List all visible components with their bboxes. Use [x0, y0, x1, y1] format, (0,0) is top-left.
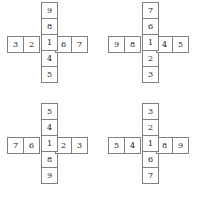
cross-bottom-right-inner: 3 2 1 6 7 5 4 1 8 9 — [101, 101, 200, 198]
cell: 5 — [41, 103, 58, 120]
cell-center: 1 — [41, 34, 58, 51]
cell: 4 — [124, 137, 141, 154]
cell: 3 — [142, 66, 159, 83]
cell: 9 — [41, 167, 58, 184]
cross-bottom-right-vertical-arm: 3 2 1 6 7 — [142, 103, 159, 184]
cross-bottom-left-inner: 5 4 1 8 9 7 6 1 2 3 — [0, 101, 100, 198]
cell: 5 — [41, 66, 58, 83]
cross-bottom-left-vertical-arm: 5 4 1 8 9 — [41, 103, 58, 184]
cell: 2 — [23, 36, 40, 53]
cross-top-left-inner: 9 8 1 4 5 3 2 1 6 7 — [0, 0, 100, 99]
cell: 9 — [172, 137, 189, 154]
cell: 7 — [142, 167, 159, 184]
cell: 5 — [108, 137, 125, 154]
cell: 5 — [172, 36, 189, 53]
cross-bottom-left: 5 4 1 8 9 7 6 1 2 3 — [0, 101, 100, 198]
cell: 3 — [142, 103, 159, 120]
cell: 7 — [142, 2, 159, 19]
cross-bottom-right: 3 2 1 6 7 5 4 1 8 9 — [101, 101, 200, 198]
cell: 6 — [23, 137, 40, 154]
cell: 8 — [124, 36, 141, 53]
cell-center: 1 — [142, 34, 159, 51]
cell: 8 — [41, 18, 58, 35]
cross-top-left-vertical-arm: 9 8 1 4 5 — [41, 2, 58, 83]
cell: 3 — [7, 36, 24, 53]
cell: 6 — [142, 18, 159, 35]
cell: 7 — [7, 137, 24, 154]
cell-center: 1 — [142, 135, 159, 152]
cross-top-right-vertical-arm: 7 6 1 2 3 — [142, 2, 159, 83]
figure-root: 9 8 1 4 5 3 2 1 6 7 7 6 1 2 3 — [0, 0, 200, 198]
cell: 2 — [142, 119, 159, 136]
cross-top-left: 9 8 1 4 5 3 2 1 6 7 — [0, 0, 100, 99]
cross-top-right-inner: 7 6 1 2 3 9 8 1 4 5 — [101, 0, 200, 99]
cell: 9 — [41, 2, 58, 19]
cell-center: 1 — [41, 135, 58, 152]
cell: 3 — [71, 137, 88, 154]
cell: 7 — [71, 36, 88, 53]
cross-top-right: 7 6 1 2 3 9 8 1 4 5 — [101, 0, 200, 99]
cell: 4 — [41, 119, 58, 136]
cell: 9 — [108, 36, 125, 53]
